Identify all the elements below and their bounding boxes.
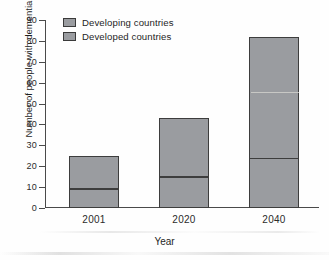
y-tick-label-40: 40 xyxy=(0,119,37,129)
y-tick-label-10: 10 xyxy=(0,182,37,192)
scan-artifact-line xyxy=(251,92,299,93)
y-tick-90 xyxy=(39,20,45,21)
scan-smudge-upper xyxy=(40,231,320,233)
y-tick-label-70: 70 xyxy=(0,57,37,67)
x-tick-label-2001: 2001 xyxy=(64,214,124,225)
y-tick-label-60: 60 xyxy=(0,78,37,88)
legend-swatch-developing-icon xyxy=(63,18,76,27)
x-axis-title: Year xyxy=(0,236,329,247)
legend-item-developed: Developed countries xyxy=(63,30,174,43)
y-tick-label-20: 20 xyxy=(0,161,37,171)
chart-figure: Number of people with dementia (millions… xyxy=(0,0,329,260)
y-tick-70 xyxy=(39,62,45,63)
legend-item-developing: Developing countries xyxy=(63,16,174,29)
scan-smudge-lower xyxy=(0,252,329,255)
bar-2040-divider xyxy=(250,158,298,160)
y-tick-60 xyxy=(39,83,45,84)
legend-label-developed: Developed countries xyxy=(82,31,171,42)
y-tick-80 xyxy=(39,41,45,42)
y-tick-label-80: 80 xyxy=(0,36,37,46)
y-tick-40 xyxy=(39,124,45,125)
y-tick-10 xyxy=(39,187,45,188)
y-tick-label-0: 0 xyxy=(0,203,37,213)
bar-2001 xyxy=(69,156,119,208)
y-tick-20 xyxy=(39,166,45,167)
bar-2020-divider xyxy=(160,176,208,178)
legend-label-developing: Developing countries xyxy=(82,17,174,28)
x-tick-label-2020: 2020 xyxy=(154,214,214,225)
x-tick-label-2040: 2040 xyxy=(244,214,304,225)
y-tick-50 xyxy=(39,104,45,105)
y-tick-30 xyxy=(39,145,45,146)
chart-legend: Developing countries Developed countries xyxy=(63,16,174,44)
bar-2040 xyxy=(249,37,299,208)
legend-swatch-developed-icon xyxy=(63,32,76,41)
y-tick-label-50: 50 xyxy=(0,99,37,109)
y-tick-0 xyxy=(39,208,45,209)
y-tick-label-30: 30 xyxy=(0,140,37,150)
y-tick-label-90: 90 xyxy=(0,15,37,25)
bar-2020 xyxy=(159,118,209,208)
y-axis-line xyxy=(45,20,46,208)
bar-2001-divider xyxy=(70,188,118,190)
